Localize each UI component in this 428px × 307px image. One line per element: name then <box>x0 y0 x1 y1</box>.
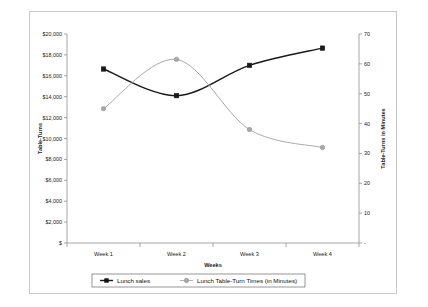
data-point-marker <box>174 93 178 97</box>
data-point-marker <box>174 57 178 61</box>
x-axis-tick-label: Week 2 <box>167 251 186 257</box>
legend-marker-0 <box>104 278 108 282</box>
x-axis-tick-label: Week 3 <box>240 251 259 257</box>
x-axis-tick-label: Week 1 <box>94 251 113 257</box>
y-axis-right-tick-label: - <box>364 240 366 246</box>
y-axis-right-title: Table-Turns in Minutes <box>380 108 386 168</box>
y-axis-right-tick-label: 50 <box>364 91 370 97</box>
legend-marker-1 <box>184 278 188 282</box>
series-line-0 <box>104 48 323 96</box>
line-chart: $$2,000$4,000$6,000$8,000$10,000$12,000$… <box>30 12 396 293</box>
y-axis-right-tick-label: 60 <box>364 61 370 67</box>
y-axis-left-tick-label: $12,000 <box>43 115 63 121</box>
data-point-marker <box>101 67 105 71</box>
series-line-1 <box>104 59 323 147</box>
y-axis-left-tick-label: $6,000 <box>46 177 63 183</box>
y-axis-left-tick-label: $8,000 <box>46 156 63 162</box>
y-axis-left-tick-label: $18,000 <box>43 52 63 58</box>
x-axis-title: Weeks <box>204 262 222 268</box>
x-axis-tick-label: Week 4 <box>313 251 332 257</box>
y-axis-left-title: Table-Turns <box>37 123 43 154</box>
y-axis-left-tick-label: $16,000 <box>43 73 63 79</box>
y-axis-left-tick-label: $10,000 <box>43 136 63 142</box>
data-point-marker <box>320 145 324 149</box>
y-axis-left-tick-label: $2,000 <box>46 219 63 225</box>
data-point-marker <box>101 106 105 110</box>
y-axis-left-tick-label: $ <box>59 240 62 246</box>
y-axis-left-tick-label: $4,000 <box>46 198 63 204</box>
data-point-marker <box>247 127 251 131</box>
y-axis-right-tick-label: 10 <box>364 210 370 216</box>
y-axis-right-tick-label: 40 <box>364 121 370 127</box>
y-axis-right-tick-label: 30 <box>364 150 370 156</box>
data-point-marker <box>247 63 251 67</box>
y-axis-right-tick-label: 70 <box>364 31 370 37</box>
chart-frame: $$2,000$4,000$6,000$8,000$10,000$12,000$… <box>29 11 397 294</box>
y-axis-right-tick-label: 20 <box>364 180 370 186</box>
y-axis-left-tick-label: $14,000 <box>43 94 63 100</box>
data-point-marker <box>320 46 324 50</box>
legend-label-1: Lunch Table-Turn Times (in Minutes) <box>197 277 297 284</box>
y-axis-left-tick-label: $20,000 <box>43 31 63 37</box>
legend-label-0: Lunch sales <box>117 277 150 284</box>
